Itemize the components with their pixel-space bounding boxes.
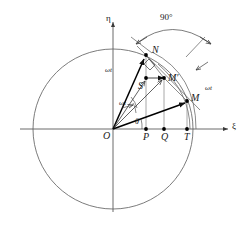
point-label-M: M	[191, 93, 199, 103]
omega-t-label-lower: ωt	[119, 100, 126, 107]
point-label-O: O	[103, 131, 110, 141]
angle-arc-theta	[141, 119, 142, 129]
vector-O-N	[113, 59, 144, 129]
point-dot-M	[185, 99, 189, 103]
tangent-tick-right	[186, 37, 205, 57]
point-dot-S	[144, 76, 148, 80]
arc-90-left-head	[136, 37, 147, 44]
point-label-N: N	[152, 45, 159, 55]
angle-label-90-degrees: 90°	[160, 13, 173, 22]
arc-90-degrees	[137, 30, 210, 44]
point-label-Q: Q	[161, 132, 168, 142]
point-label-S: S	[138, 81, 143, 91]
diagram-svg	[0, 0, 252, 228]
omega-t-label-upper: ωt	[105, 67, 112, 74]
omega-t-label-right: ωt	[205, 85, 212, 92]
diagram-canvas: η ξ O N S M′ M P Q T 90° θ ωt ωt ωt	[0, 0, 252, 228]
axis-label-xi: ξ	[232, 122, 236, 131]
point-label-P: P	[143, 132, 149, 142]
angle-label-theta: θ	[135, 118, 139, 126]
point-dot-N	[144, 53, 148, 57]
axis-label-eta: η	[106, 14, 111, 23]
point-label-M-prime: M′	[168, 73, 179, 83]
point-label-T: T	[184, 132, 190, 142]
point-dot-Mp	[162, 76, 166, 80]
omega-right-leader	[196, 62, 208, 70]
